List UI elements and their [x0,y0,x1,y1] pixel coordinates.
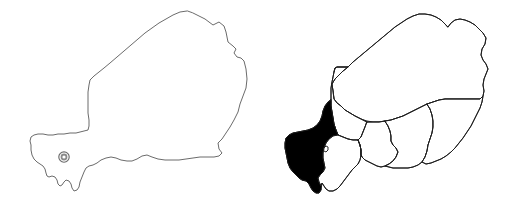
regions-map-svg [255,0,510,201]
outline-map-svg [0,0,255,201]
country-outline-niger [30,11,247,191]
niger-map-figure [0,0,510,201]
panel-regions-map [255,0,510,201]
capital-marker-center-dot [62,155,65,158]
panel-outline-map [0,0,255,201]
